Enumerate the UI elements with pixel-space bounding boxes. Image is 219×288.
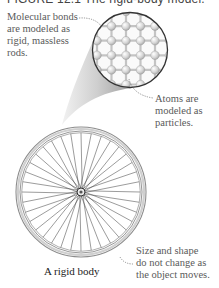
rigid-body-figure: FIGURE 12.1 The rigid-body model. [0,0,219,288]
annotation-molecular-bonds: Molecular bonds are modeled as rigid, ma… [7,11,78,59]
rigid-body-label: A rigid body [44,265,100,277]
bicycle-wheel [16,127,146,257]
leader-molecular-bonds [79,18,102,27]
annotation-line: rods. [7,47,78,59]
annotation-line: are modeled as [7,23,78,35]
annotation-atoms: Atoms are modeled as particles. [155,93,203,129]
annotation-size-shape: Size and shape do not change as the obje… [136,245,210,281]
annotation-line: Atoms are [155,93,203,105]
leader-size-shape [120,257,133,264]
annotation-line: the object moves. [136,269,210,281]
annotation-line: Size and shape [136,245,210,257]
annotation-line: modeled as [155,105,203,117]
annotation-line: rigid, massless [7,35,78,47]
annotation-line: particles. [155,117,203,129]
annotation-line: Molecular bonds [7,11,78,23]
annotation-line: do not change as [136,257,210,269]
